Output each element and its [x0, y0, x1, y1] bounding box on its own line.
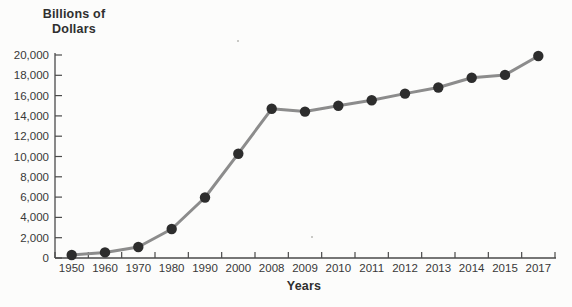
- data-point-1990: [200, 192, 210, 202]
- y-axis-tick-label: 2,000: [20, 232, 49, 244]
- x-axis-tick-label: 2012: [392, 262, 418, 274]
- y-axis-tick-label: 10,000: [14, 151, 49, 163]
- data-point-2000: [233, 149, 243, 159]
- y-axis-tick-label: 6,000: [20, 191, 49, 203]
- data-point-1960: [100, 247, 110, 257]
- x-axis-tick-label: 1960: [92, 262, 118, 274]
- y-axis-tick-label: 18,000: [14, 69, 49, 81]
- x-axis-tick-label: 2017: [526, 262, 552, 274]
- data-point-2011: [367, 95, 377, 105]
- data-point-2015: [500, 70, 510, 80]
- x-axis-tick-label: 2010: [326, 262, 352, 274]
- scan-speck: [311, 236, 313, 238]
- data-point-1970: [133, 242, 143, 252]
- data-point-1980: [167, 224, 177, 234]
- y-axis-tick-label: 20,000: [14, 49, 49, 61]
- x-axis-title: Years: [254, 279, 354, 293]
- data-point-1950: [67, 250, 77, 260]
- x-axis-tick-label: 2009: [292, 262, 318, 274]
- y-axis-tick-label: 12,000: [14, 130, 49, 142]
- x-axis-tick-label: 2011: [359, 262, 384, 274]
- scan-speck: [237, 40, 239, 42]
- y-axis-tick-label: 8,000: [20, 171, 49, 183]
- data-point-2014: [467, 73, 477, 83]
- x-axis-tick-label: 1980: [159, 262, 185, 274]
- gdp-line-chart-figure: Billions of Dollars 02,0004,0006,0008,00…: [0, 0, 572, 307]
- data-point-2013: [433, 82, 443, 92]
- x-axis-tick-label: 2013: [426, 262, 452, 274]
- chart-plot-area: 02,0004,0006,0008,00010,00012,00014,0001…: [0, 0, 572, 307]
- data-point-2012: [400, 88, 410, 98]
- x-axis-tick-label: 2015: [492, 262, 518, 274]
- x-axis-tick-label: 1970: [126, 262, 152, 274]
- x-axis-tick-label: 2014: [459, 262, 485, 274]
- data-point-2017: [533, 51, 543, 61]
- x-axis-tick-label: 1990: [192, 262, 218, 274]
- y-axis-tick-label: 0: [43, 252, 49, 264]
- x-axis-tick-label: 2008: [259, 262, 285, 274]
- y-axis-tick-label: 16,000: [14, 90, 49, 102]
- data-point-2008: [267, 104, 277, 114]
- y-axis-tick-label: 4,000: [20, 211, 49, 223]
- x-axis-tick-label: 1950: [59, 262, 85, 274]
- x-axis-tick-label: 2000: [226, 262, 252, 274]
- data-line: [72, 56, 539, 255]
- data-point-2010: [333, 101, 343, 111]
- y-axis-tick-label: 14,000: [14, 110, 49, 122]
- data-point-2009: [300, 106, 310, 116]
